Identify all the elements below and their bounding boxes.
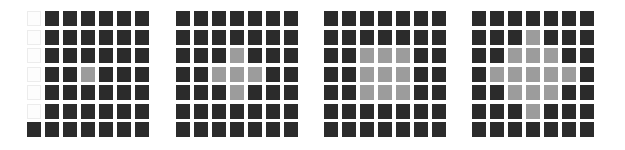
dark-cell (342, 48, 356, 63)
dark-cell (580, 11, 594, 26)
dark-cell (230, 104, 244, 119)
gray-cell (526, 48, 540, 63)
dark-cell (490, 85, 504, 100)
dark-cell (544, 11, 558, 26)
dark-cell (63, 48, 77, 63)
dark-cell (342, 67, 356, 82)
empty-cell (27, 67, 41, 82)
dark-cell (360, 122, 374, 137)
dark-cell (324, 11, 338, 26)
dark-cell (580, 48, 594, 63)
dark-cell (194, 104, 208, 119)
grid-4 (472, 11, 594, 137)
dark-cell (432, 48, 446, 63)
dark-cell (472, 122, 486, 137)
gray-cell (81, 67, 95, 82)
dark-cell (176, 122, 190, 137)
dark-cell (526, 122, 540, 137)
dark-cell (176, 48, 190, 63)
dark-cell (117, 30, 131, 45)
dark-cell (580, 85, 594, 100)
grid-2 (176, 11, 298, 137)
dark-cell (562, 122, 576, 137)
dark-cell (117, 67, 131, 82)
dark-cell (324, 122, 338, 137)
gray-cell (396, 85, 410, 100)
gray-cell (490, 67, 504, 82)
dark-cell (378, 122, 392, 137)
dark-cell (490, 11, 504, 26)
dark-cell (230, 122, 244, 137)
dark-cell (176, 85, 190, 100)
grid-1 (27, 11, 149, 137)
empty-cell (27, 104, 41, 119)
dark-cell (360, 11, 374, 26)
gray-cell (360, 67, 374, 82)
dark-cell (580, 122, 594, 137)
dark-cell (194, 30, 208, 45)
dark-cell (544, 30, 558, 45)
dark-cell (63, 104, 77, 119)
dark-cell (396, 104, 410, 119)
dark-cell (414, 11, 428, 26)
dark-cell (135, 67, 149, 82)
dark-cell (194, 11, 208, 26)
dark-cell (266, 67, 280, 82)
dark-cell (194, 67, 208, 82)
dark-cell (45, 11, 59, 26)
dark-cell (472, 48, 486, 63)
dark-cell (212, 48, 226, 63)
gray-cell (396, 67, 410, 82)
dark-cell (135, 122, 149, 137)
dark-cell (324, 104, 338, 119)
dark-cell (176, 67, 190, 82)
dark-cell (99, 85, 113, 100)
dark-cell (526, 11, 540, 26)
dark-cell (135, 85, 149, 100)
dark-cell (63, 85, 77, 100)
dark-cell (266, 122, 280, 137)
dark-cell (63, 11, 77, 26)
dark-cell (284, 122, 298, 137)
dark-cell (99, 11, 113, 26)
dark-cell (342, 85, 356, 100)
dark-cell (194, 85, 208, 100)
gray-cell (562, 67, 576, 82)
empty-cell (27, 85, 41, 100)
dark-cell (45, 104, 59, 119)
gray-cell (544, 67, 558, 82)
dark-cell (27, 122, 41, 137)
gray-cell (378, 85, 392, 100)
dark-cell (580, 67, 594, 82)
dark-cell (360, 30, 374, 45)
dark-cell (472, 67, 486, 82)
dark-cell (562, 11, 576, 26)
dark-cell (432, 85, 446, 100)
dark-cell (562, 85, 576, 100)
empty-cell (27, 48, 41, 63)
dark-cell (324, 85, 338, 100)
dark-cell (580, 30, 594, 45)
gray-cell (526, 67, 540, 82)
dark-cell (194, 48, 208, 63)
dark-cell (378, 11, 392, 26)
dark-cell (266, 48, 280, 63)
dark-cell (45, 122, 59, 137)
dark-cell (414, 67, 428, 82)
dark-cell (490, 122, 504, 137)
dark-cell (266, 85, 280, 100)
gray-cell (526, 104, 540, 119)
dark-cell (266, 11, 280, 26)
gray-cell (508, 67, 522, 82)
dark-cell (490, 104, 504, 119)
dark-cell (248, 104, 262, 119)
gray-cell (526, 85, 540, 100)
dark-cell (324, 67, 338, 82)
dark-cell (284, 48, 298, 63)
dark-cell (248, 30, 262, 45)
dark-cell (135, 11, 149, 26)
dark-cell (176, 104, 190, 119)
dark-cell (490, 48, 504, 63)
dark-cell (117, 122, 131, 137)
dark-cell (284, 85, 298, 100)
